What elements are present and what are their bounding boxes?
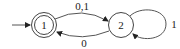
edge-2-to-1 [57,31,109,37]
state-1: 1 [32,13,57,38]
state-1-label: 1 [41,19,47,31]
edge-2-self-loop-label: 1 [171,18,177,30]
edge-1-to-2-label: 0,1 [75,0,89,12]
state-2: 2 [109,13,134,38]
edge-2-to-1-label: 0 [81,37,87,49]
state-2-label: 2 [118,19,124,31]
edge-2-self-loop [130,10,166,39]
automaton-diagram: 1 2 0,1 0 1 [0,0,180,49]
edge-1-to-2 [55,13,108,21]
